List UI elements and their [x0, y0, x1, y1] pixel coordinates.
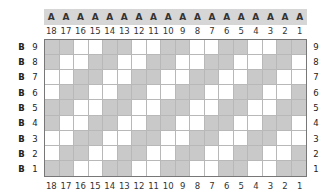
row-number-right: 2 [309, 146, 323, 161]
shaded-cell [132, 146, 147, 161]
empty-cell [219, 146, 234, 161]
empty-cell [205, 100, 220, 115]
shaded-cell [277, 161, 292, 176]
row-letter: B [14, 118, 29, 128]
empty-cell [132, 55, 147, 70]
shaded-cell [60, 146, 75, 161]
empty-cell [277, 85, 292, 100]
column-letter: A [249, 9, 264, 25]
empty-cell [118, 131, 133, 146]
column-number: 9 [175, 26, 190, 36]
empty-cell [234, 131, 249, 146]
column-number: 16 [73, 26, 88, 36]
column-number: 10 [161, 181, 176, 191]
empty-cell [176, 70, 191, 85]
shaded-cell [161, 55, 176, 70]
empty-cell [248, 40, 263, 55]
empty-cell [89, 100, 104, 115]
row-labels-left: B9B8B7B6B5B4B3B2B1 [14, 39, 42, 177]
shaded-cell [74, 85, 89, 100]
empty-cell [74, 55, 89, 70]
shaded-cell [292, 161, 307, 176]
empty-cell [161, 85, 176, 100]
empty-cell [118, 116, 133, 131]
shaded-cell [118, 146, 133, 161]
shaded-cell [60, 40, 75, 55]
column-number: 18 [44, 181, 59, 191]
shaded-cell [147, 55, 162, 70]
empty-cell [132, 100, 147, 115]
row-letter: B [14, 88, 29, 98]
shaded-cell [118, 40, 133, 55]
shaded-cell [234, 85, 249, 100]
shaded-cell [103, 161, 118, 176]
column-number: 1 [292, 181, 307, 191]
empty-cell [147, 161, 162, 176]
shaded-cell [89, 55, 104, 70]
empty-cell [205, 85, 220, 100]
shaded-cell [103, 116, 118, 131]
shaded-cell [205, 55, 220, 70]
empty-cell [103, 70, 118, 85]
row-number: 7 [29, 72, 41, 82]
shaded-cell [219, 161, 234, 176]
column-number: 15 [88, 181, 103, 191]
shaded-cell [45, 100, 60, 115]
column-letter: A [88, 9, 103, 25]
shaded-cell [292, 40, 307, 55]
row-letter: B [14, 103, 29, 113]
column-number: 14 [102, 26, 117, 36]
row-number: 5 [29, 103, 41, 113]
empty-cell [205, 40, 220, 55]
empty-cell [89, 146, 104, 161]
empty-cell [45, 70, 60, 85]
column-number: 13 [117, 181, 132, 191]
shaded-cell [277, 100, 292, 115]
shaded-cell [248, 70, 263, 85]
shaded-cell [277, 55, 292, 70]
shaded-cell [132, 85, 147, 100]
empty-cell [74, 100, 89, 115]
row-label: B5 [14, 100, 42, 115]
row-number: 8 [29, 57, 41, 67]
empty-cell [132, 40, 147, 55]
empty-cell [176, 131, 191, 146]
column-number: 2 [278, 26, 293, 36]
empty-cell [132, 116, 147, 131]
column-letter: A [59, 9, 74, 25]
row-number: 6 [29, 88, 41, 98]
shaded-cell [161, 161, 176, 176]
column-number: 13 [117, 26, 132, 36]
column-number: 3 [263, 26, 278, 36]
empty-cell [263, 40, 278, 55]
shaded-cell [45, 161, 60, 176]
shaded-cell [89, 116, 104, 131]
shaded-cell [161, 40, 176, 55]
empty-cell [103, 131, 118, 146]
row-number-right: 6 [309, 85, 323, 100]
shaded-cell [234, 161, 249, 176]
empty-cell [263, 85, 278, 100]
shaded-cell [147, 116, 162, 131]
empty-cell [161, 131, 176, 146]
shaded-cell [277, 40, 292, 55]
empty-cell [248, 100, 263, 115]
row-label: B1 [14, 162, 42, 177]
empty-cell [74, 40, 89, 55]
column-letter: A [205, 9, 220, 25]
row-label: B9 [14, 39, 42, 54]
empty-cell [292, 70, 307, 85]
empty-cell [277, 146, 292, 161]
shaded-cell [74, 70, 89, 85]
empty-cell [190, 100, 205, 115]
column-letter: A [292, 9, 307, 25]
column-number: 7 [205, 26, 220, 36]
shaded-cell [45, 40, 60, 55]
empty-cell [60, 131, 75, 146]
shaded-cell [176, 100, 191, 115]
column-number: 12 [132, 26, 147, 36]
row-number: 9 [29, 42, 41, 52]
empty-cell [263, 161, 278, 176]
row-letter: B [14, 149, 29, 159]
shaded-cell [292, 100, 307, 115]
